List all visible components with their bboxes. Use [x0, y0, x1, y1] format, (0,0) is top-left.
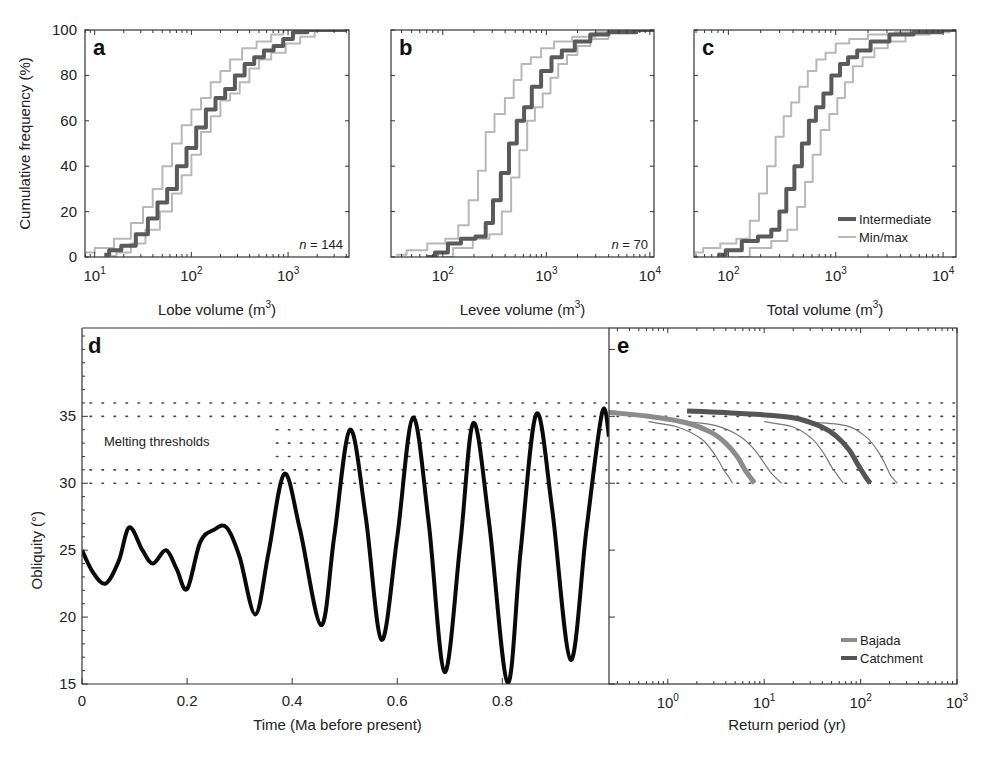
- x-tick-label: 102: [849, 692, 872, 711]
- plot-area: [609, 411, 897, 483]
- x-tick-label: 102: [717, 265, 740, 284]
- y-tick-label: 15: [59, 675, 76, 692]
- y-tick-label: 80: [60, 66, 77, 83]
- panel-letter: e: [617, 333, 629, 358]
- legend-label: Min/max: [859, 230, 909, 245]
- series-intermediate-line: [427, 30, 654, 257]
- panel-a: 020406080100101102103Lobe volume (m3)Cum…: [16, 21, 349, 318]
- series-intermediate-line: [104, 30, 346, 255]
- panel-letter: c: [702, 35, 714, 60]
- x-tick-label: 103: [277, 265, 300, 284]
- legend-label: Bajada: [860, 633, 901, 648]
- legend: IntermediateMin/max: [838, 212, 931, 245]
- legend-label: Intermediate: [859, 212, 931, 227]
- x-tick-label: 0.8: [492, 692, 513, 709]
- y-tick-label: 25: [59, 541, 76, 558]
- y-tick-label: 100: [52, 21, 77, 38]
- series-max-line: [443, 30, 654, 257]
- x-tick-label: 103: [825, 265, 848, 284]
- series-max-line: [109, 30, 346, 256]
- y-axis-label: Cumulative frequency (%): [16, 57, 33, 230]
- x-tick-label: 0: [78, 692, 86, 709]
- x-tick-label: 103: [535, 265, 558, 284]
- x-axis-label: Lobe volume (m3): [158, 299, 276, 318]
- x-axis-label: Total volume (m3): [767, 299, 883, 318]
- axes-frame: [85, 30, 349, 257]
- panel-c: 102103104Total volume (m3)cIntermediateM…: [694, 30, 956, 318]
- y-tick-label: 30: [59, 474, 76, 491]
- x-tick-label: 102: [180, 265, 203, 284]
- panel-letter: b: [399, 35, 412, 60]
- obliquity-line: [82, 408, 609, 682]
- y-axis-label: Obliquity (°): [28, 511, 45, 590]
- series-min-line: [396, 30, 654, 255]
- legend: BajadaCatchment: [841, 633, 923, 666]
- panel-e: 100101102103Return period (yr)eBajadaCat…: [609, 328, 969, 733]
- figure: 020406080100101102103Lobe volume (m3)Cum…: [0, 0, 981, 758]
- series-bajada-min-line: [649, 422, 733, 484]
- sample-size-annotation: n = 70: [611, 237, 648, 252]
- x-tick-label: 0.6: [387, 692, 408, 709]
- panel-letter: d: [88, 333, 101, 358]
- panel-letter: a: [93, 35, 106, 60]
- x-tick-label: 103: [946, 692, 969, 711]
- melting-thresholds-label: Melting thresholds: [104, 434, 210, 449]
- x-tick-label: 104: [639, 265, 662, 284]
- y-tick-label: 20: [59, 608, 76, 625]
- panel-b: 102103104Levee volume (m3)bn = 70: [391, 30, 661, 318]
- plot-area: [85, 30, 346, 256]
- series-bajada-line: [609, 412, 755, 483]
- x-tick-label: 0.4: [282, 692, 303, 709]
- plot-area: [396, 30, 654, 257]
- y-tick-label: 0: [69, 248, 77, 265]
- x-tick-label: 100: [657, 692, 680, 711]
- sample-size-annotation: n = 144: [299, 237, 343, 252]
- series-catchment-line: [687, 411, 870, 483]
- y-tick-label: 40: [60, 157, 77, 174]
- x-axis-label: Levee volume (m3): [460, 299, 586, 318]
- legend-label: Catchment: [860, 651, 923, 666]
- y-tick-label: 35: [59, 407, 76, 424]
- panel-d: Melting thresholds152025303500.20.40.60.…: [28, 328, 609, 733]
- x-tick-label: 104: [932, 265, 955, 284]
- x-tick-label: 101: [84, 265, 107, 284]
- x-tick-label: 0.2: [177, 692, 198, 709]
- x-axis-label: Time (Ma before present): [253, 716, 422, 733]
- axes-frame: [609, 328, 957, 684]
- y-tick-label: 20: [60, 203, 77, 220]
- x-axis-label: Return period (yr): [728, 716, 846, 733]
- series-min-line: [85, 30, 346, 253]
- x-tick-label: 102: [432, 265, 455, 284]
- y-tick-label: 60: [60, 112, 77, 129]
- x-tick-label: 101: [753, 692, 776, 711]
